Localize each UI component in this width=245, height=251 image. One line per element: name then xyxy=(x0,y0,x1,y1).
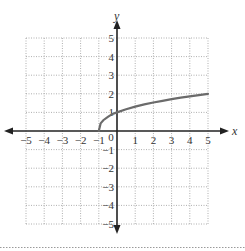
y-tick-label: −5 xyxy=(102,218,114,230)
x-tick-label: 0 xyxy=(108,131,114,143)
x-tick-label: −3 xyxy=(57,134,69,146)
y-tick-label: −1 xyxy=(102,144,114,156)
axes: x y xyxy=(4,9,238,234)
y-tick-label: 2 xyxy=(109,88,115,100)
y-axis-down-arrow-icon xyxy=(114,225,121,234)
x-tick-label: −2 xyxy=(75,134,87,146)
x-axis-right-arrow-icon xyxy=(220,128,229,135)
y-tick-label: 5 xyxy=(109,32,115,44)
x-tick-labels: −5−4−3−2−1012345 xyxy=(20,131,211,146)
x-tick-label: −5 xyxy=(20,134,32,146)
x-tick-label: −4 xyxy=(38,134,50,146)
y-tick-label: 4 xyxy=(109,51,115,63)
graph: x y −5−4−3−2−1012345 54321−1−2−3−4−5 xyxy=(0,0,245,251)
x-tick-label: 2 xyxy=(151,134,157,146)
y-axis-label: y xyxy=(113,9,120,23)
y-tick-label: −4 xyxy=(102,199,114,211)
x-tick-label: 5 xyxy=(205,134,211,146)
x-axis-left-arrow-icon xyxy=(4,128,13,135)
x-tick-label: 3 xyxy=(169,134,175,146)
y-tick-label: −3 xyxy=(102,181,114,193)
y-tick-label: −2 xyxy=(102,162,114,174)
y-tick-label: 3 xyxy=(109,69,115,81)
x-tick-label: 1 xyxy=(132,134,138,146)
x-axis-label: x xyxy=(231,124,238,138)
x-tick-label: 4 xyxy=(187,134,193,146)
